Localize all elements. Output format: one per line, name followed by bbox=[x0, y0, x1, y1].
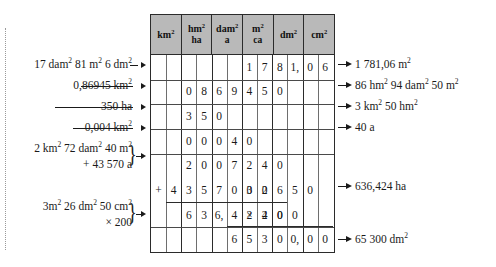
label-3-arrow-icon bbox=[141, 104, 146, 110]
label-3-leader-line bbox=[55, 107, 133, 108]
digit-cell: 0 bbox=[303, 61, 318, 74]
result-3-arrow-icon bbox=[338, 103, 352, 110]
digit-cell: 0 bbox=[227, 184, 242, 197]
units-conversion-table: km2hm2hadam2am2cadm2cm2 1781,06086945035… bbox=[150, 14, 335, 253]
label-6-line-1: 3m2 26 dm2 50 cm2 bbox=[43, 200, 132, 213]
digit-cell: 4 bbox=[166, 184, 181, 197]
digit-cell: 0 bbox=[272, 85, 287, 98]
grid-hline bbox=[151, 154, 334, 155]
digit-cell: 6, bbox=[212, 209, 227, 222]
result-3: 3 km2 50 hm2 bbox=[355, 100, 418, 113]
label-1-leader-line bbox=[130, 65, 138, 66]
digit-cell: 8 bbox=[272, 61, 287, 74]
digit-cell: 0 bbox=[272, 209, 287, 222]
label-5-line-2: + 43 570 a bbox=[83, 158, 132, 171]
operator-sign: × bbox=[242, 209, 257, 222]
digit-cell: 4 bbox=[227, 209, 242, 222]
digit-cell: 6 bbox=[227, 233, 242, 246]
digit-cell: 6 bbox=[318, 61, 333, 74]
label-6-arrow-icon bbox=[141, 211, 146, 217]
digit-cell: 7 bbox=[212, 184, 227, 197]
result-1-arrow-icon bbox=[338, 61, 352, 68]
unit-alias: ca bbox=[253, 35, 262, 46]
unit-symbol: cm2 bbox=[311, 29, 327, 40]
unit-symbol: hm2 bbox=[188, 23, 205, 34]
label-4-arrow-icon bbox=[141, 125, 146, 131]
digit-cell: 0 bbox=[196, 159, 211, 172]
digit-cell: 5 bbox=[196, 184, 211, 197]
grid-hline bbox=[151, 80, 334, 81]
digit-cell: 5 bbox=[196, 110, 211, 123]
digit-cell: 2 bbox=[257, 184, 272, 197]
unit-symbol: m2 bbox=[252, 23, 264, 34]
label-1-arrow-icon bbox=[141, 62, 146, 68]
label-5-brace: } bbox=[128, 141, 137, 167]
unit-symbol: dam2 bbox=[216, 23, 238, 34]
digit-cell: 0 bbox=[318, 233, 333, 246]
sum-rule bbox=[227, 226, 333, 227]
digit-cell: 0, bbox=[287, 233, 302, 246]
digit-cell: 5 bbox=[242, 233, 257, 246]
digit-cell: 1 bbox=[242, 61, 257, 74]
label-5-line-1: 2 km2 72 dam2 40 m2 bbox=[34, 142, 132, 155]
digit-cell: 3 bbox=[242, 184, 257, 197]
result-1: 1 781,06 m2 bbox=[355, 58, 411, 71]
digit-cell: 0 bbox=[287, 209, 302, 222]
digit-cell: 0 bbox=[181, 85, 196, 98]
unit-header-dm2: dm2 bbox=[274, 15, 305, 54]
digit-cell: 3 bbox=[196, 209, 211, 222]
unit-header-m2: m2ca bbox=[243, 15, 274, 54]
digit-cell: 0 bbox=[212, 135, 227, 148]
digit-cell: 6 bbox=[181, 209, 196, 222]
grid-hline bbox=[151, 227, 334, 228]
digit-cell: 1, bbox=[287, 61, 302, 74]
digit-cell: 7 bbox=[257, 61, 272, 74]
digit-cell: 0 bbox=[212, 159, 227, 172]
digit-cell: 3 bbox=[257, 233, 272, 246]
right-results-column: 1 781,06 m286 hm2 94 dam2 50 m23 km2 50 … bbox=[335, 0, 496, 267]
result-6: 65 300 dm2 bbox=[355, 233, 408, 246]
result-4-arrow-icon bbox=[338, 124, 352, 131]
label-4-leader-line bbox=[73, 128, 133, 129]
digit-cell: 0 bbox=[272, 233, 287, 246]
result-5: 636,424 ha bbox=[355, 180, 406, 193]
digit-cell: 2 bbox=[257, 209, 272, 222]
operator-sign: + bbox=[151, 184, 166, 197]
result-2-arrow-icon bbox=[338, 82, 352, 89]
label-2-arrow-icon bbox=[141, 83, 146, 89]
label-2-leader-line bbox=[81, 86, 133, 87]
digit-cell: 8 bbox=[196, 85, 211, 98]
unit-alias: ha bbox=[191, 35, 201, 46]
digit-cell: 4 bbox=[257, 159, 272, 172]
digit-cell: 3 bbox=[181, 110, 196, 123]
digit-cell: 0 bbox=[196, 135, 211, 148]
digit-cell: 0 bbox=[181, 135, 196, 148]
label-5-arrow-icon bbox=[141, 153, 146, 159]
digit-cell: 3 bbox=[181, 184, 196, 197]
grid-hline bbox=[151, 129, 334, 130]
digit-cell: 0 bbox=[272, 159, 287, 172]
digit-cell: 0 bbox=[212, 110, 227, 123]
digit-cell: 4 bbox=[242, 85, 257, 98]
sum-rule bbox=[166, 202, 287, 203]
grid-hline bbox=[151, 104, 334, 105]
digit-cell: 2 bbox=[242, 159, 257, 172]
unit-header-dam2: dam2a bbox=[212, 15, 243, 54]
digit-cell: 0 bbox=[242, 135, 257, 148]
result-6-arrow-icon bbox=[338, 236, 352, 243]
digit-cell: 6 bbox=[212, 85, 227, 98]
label-6-brace: } bbox=[128, 199, 137, 225]
digit-cell: 4 bbox=[227, 135, 242, 148]
digit-cell: 9 bbox=[227, 85, 242, 98]
label-1-line-1: 17 dam2 81 m2 6 dm2 bbox=[34, 58, 132, 71]
unit-symbol: km2 bbox=[157, 29, 174, 40]
digit-cell: 5 bbox=[257, 85, 272, 98]
unit-header-km2: km2 bbox=[151, 15, 182, 54]
digit-cell: 5 bbox=[287, 184, 302, 197]
result-2: 86 hm2 94 dam2 50 m2 bbox=[355, 79, 459, 92]
digit-cell: 6 bbox=[272, 184, 287, 197]
digit-cell: 2 bbox=[181, 159, 196, 172]
table-body: 1781,0608694503500004020072404357000+636… bbox=[151, 55, 334, 252]
unit-header-cm2: cm2 bbox=[304, 15, 334, 54]
result-5-arrow-icon bbox=[338, 183, 352, 190]
